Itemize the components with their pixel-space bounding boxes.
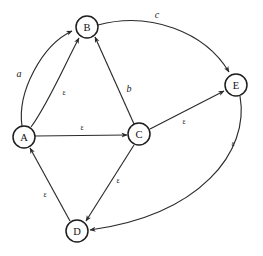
node-d-label: D — [73, 226, 81, 237]
graph-svg: A B C D E a ε ε b c ε — [0, 0, 263, 256]
edge-label-a-to-c-epsilon: ε — [80, 123, 83, 132]
node-e[interactable]: E — [225, 74, 247, 96]
node-c-label: C — [135, 129, 142, 140]
edge-c-to-d-epsilon — [86, 145, 134, 221]
diagram-canvas: A B C D E a ε ε b c ε — [0, 0, 263, 256]
edge-label-c-to-d-epsilon: ε — [116, 176, 119, 185]
node-b[interactable]: B — [76, 16, 98, 38]
node-c[interactable]: C — [128, 123, 150, 145]
edge-a-to-c-epsilon — [35, 135, 127, 136]
edge-e-to-d-epsilon — [90, 96, 241, 230]
node-b-label: B — [83, 22, 90, 33]
edge-labels-layer: a ε ε b c ε ε ε ε — [17, 9, 235, 199]
node-a[interactable]: A — [13, 126, 35, 148]
edge-a-to-b-epsilon — [31, 38, 79, 127]
edge-label-c-to-e-epsilon: ε — [182, 117, 185, 126]
node-e-label: E — [233, 80, 239, 91]
node-d[interactable]: D — [66, 220, 88, 242]
edge-label-d-to-a-epsilon: ε — [43, 190, 46, 199]
edge-b-to-e-c — [98, 21, 229, 72]
edge-label-c-to-b-b: b — [127, 83, 132, 94]
edge-a-to-b-a — [21, 31, 72, 126]
edge-d-to-a-epsilon — [30, 148, 70, 221]
edge-c-to-b-b — [95, 37, 134, 124]
node-a-label: A — [20, 132, 28, 143]
edge-label-b-to-e-c: c — [155, 9, 160, 20]
edge-c-to-e-epsilon — [150, 91, 224, 129]
edge-label-a-to-b-a: a — [17, 68, 22, 79]
edge-label-e-to-d-epsilon: ε — [231, 139, 234, 148]
edge-label-a-to-b-epsilon: ε — [62, 88, 65, 97]
